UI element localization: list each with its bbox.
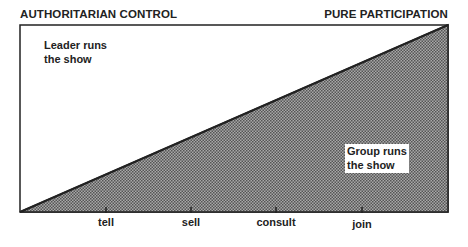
leader-line2: the show xyxy=(44,52,107,66)
tick-label-join: join xyxy=(352,218,372,230)
group-line1: Group runs xyxy=(347,144,407,158)
tick-label-tell: tell xyxy=(98,216,114,228)
leader-runs-show-label: Leader runs the show xyxy=(44,38,107,66)
tick-label-consult: consult xyxy=(256,216,295,228)
group-runs-show-label: Group runs the show xyxy=(345,144,409,173)
group-line2: the show xyxy=(347,158,407,172)
tick-label-sell: sell xyxy=(182,216,200,228)
leader-line1: Leader runs xyxy=(44,38,107,52)
